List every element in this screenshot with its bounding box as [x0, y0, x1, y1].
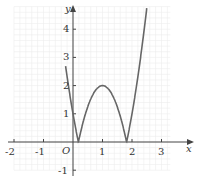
x-tick-label: -2: [5, 146, 15, 157]
y-axis-arrow-icon: [70, 5, 76, 12]
y-tick-label: 2: [63, 80, 69, 91]
y-tick-label: 3: [63, 51, 69, 62]
graph-canvas: x y O -2 -1 1 2 3 4 3 2 1 -1: [0, 0, 198, 178]
y-tick-label: 4: [63, 23, 69, 34]
x-axis-label: x: [186, 143, 192, 154]
origin-label: O: [62, 145, 70, 156]
y-axis-label: y: [64, 3, 71, 14]
x-tick-label: 2: [129, 146, 135, 157]
function-curve: [66, 8, 147, 141]
x-tick-label: -1: [35, 146, 45, 157]
y-tick-label: -1: [58, 165, 68, 176]
x-tick-label: 3: [158, 146, 164, 157]
function-graph: x y O -2 -1 1 2 3 4 3 2 1 -1: [0, 0, 198, 178]
x-tick-label: 1: [99, 146, 105, 157]
y-tick-label: 1: [63, 108, 69, 119]
